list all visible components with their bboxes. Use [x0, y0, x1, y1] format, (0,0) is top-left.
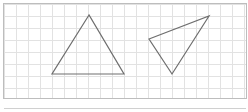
grid-diagram — [0, 0, 248, 112]
grid-lines — [4, 4, 246, 98]
triangle-b — [149, 16, 209, 74]
